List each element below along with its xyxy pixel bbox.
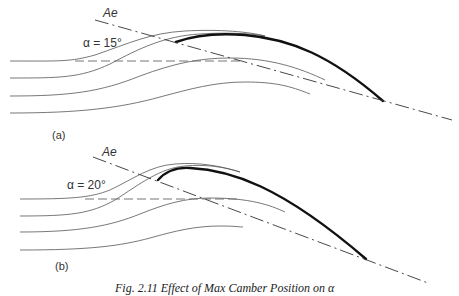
camber-line [158, 168, 366, 259]
camber-line [176, 34, 383, 101]
camber-diagram: Ae α = 15° (a) Ae α = 20° (b) Fig. 2.11 … [0, 0, 459, 296]
panel-b: Ae α = 20° (b) [20, 145, 428, 283]
figure-caption: Fig. 2.11 Effect of Max Camber Position … [114, 281, 335, 295]
angle-label: α = 15° [83, 36, 122, 50]
panel-label: (b) [55, 260, 68, 272]
streamline [20, 226, 243, 250]
angle-label: α = 20° [67, 178, 106, 192]
axis-label: Ae [101, 145, 117, 159]
streamline [20, 165, 240, 216]
chord-line [93, 157, 428, 283]
streamline [10, 82, 310, 113]
chord-line [95, 20, 452, 120]
panel-a: Ae α = 15° (a) [10, 6, 452, 141]
axis-label: Ae [102, 6, 118, 20]
panel-label: (a) [52, 129, 65, 141]
